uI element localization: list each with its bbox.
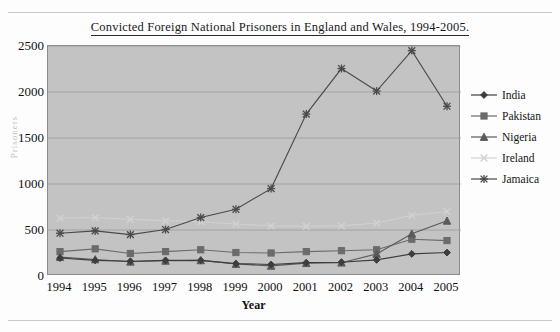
cross-marker-icon <box>470 151 498 165</box>
plot-svg <box>48 46 461 276</box>
chart-title-text: Convicted Foreign National Prisoners in … <box>91 20 469 36</box>
series-jamaica <box>56 47 451 239</box>
chart-legend: IndiaPakistanNigeriaIrelandJamaica <box>470 84 556 189</box>
diamond-marker-icon <box>470 88 498 102</box>
x-axis-ticks: 1994199519961997199819992000200120022003… <box>47 281 460 297</box>
y-tick-label: 1500 <box>0 131 44 144</box>
page-rule-top <box>8 12 552 13</box>
x-axis-title: Year <box>47 298 460 313</box>
square-marker-icon <box>470 109 498 123</box>
legend-label: Jamaica <box>502 173 539 185</box>
legend-item-nigeria[interactable]: Nigeria <box>470 126 556 147</box>
chart-title: Convicted Foreign National Prisoners in … <box>0 20 560 35</box>
asterisk-marker-icon <box>470 172 498 186</box>
y-tick-label: 2000 <box>0 85 44 98</box>
y-tick-label: 500 <box>0 223 44 236</box>
y-tick-label: 2500 <box>0 39 44 52</box>
page-rule-bottom <box>8 320 552 321</box>
legend-item-india[interactable]: India <box>470 84 556 105</box>
legend-item-pakistan[interactable]: Pakistan <box>470 105 556 126</box>
chart-page: Convicted Foreign National Prisoners in … <box>0 0 560 332</box>
y-axis-ticks: 05001000150020002500 <box>0 45 44 275</box>
y-tick-label: 0 <box>0 269 44 282</box>
legend-label: Ireland <box>502 152 535 164</box>
plot-area <box>47 45 460 275</box>
legend-label: India <box>502 89 526 101</box>
x-tick-label: 2005 <box>424 281 468 294</box>
triangle-marker-icon <box>470 130 498 144</box>
legend-label: Pakistan <box>502 110 541 122</box>
legend-label: Nigeria <box>502 131 536 143</box>
series-pakistan <box>57 236 450 256</box>
legend-item-jamaica[interactable]: Jamaica <box>470 168 556 189</box>
series-ireland <box>57 208 451 230</box>
y-tick-label: 1000 <box>0 177 44 190</box>
legend-item-ireland[interactable]: Ireland <box>470 147 556 168</box>
